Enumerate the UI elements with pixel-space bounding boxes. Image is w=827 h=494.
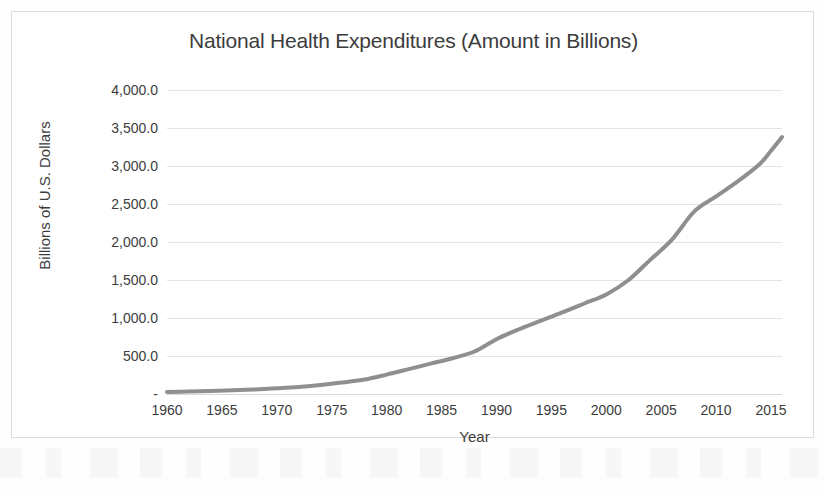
data-series-line xyxy=(167,90,782,394)
scanned-page: National Health Expenditures (Amount in … xyxy=(0,0,827,494)
x-axis-tick-labels: 1960196519701975198019851990199520002005… xyxy=(167,402,782,424)
x-axis-tick: 1970 xyxy=(261,402,292,418)
y-axis-tick: 2,500.0 xyxy=(111,196,158,212)
y-axis-tick: 1,500.0 xyxy=(111,272,158,288)
x-axis-tick: 1995 xyxy=(536,402,567,418)
x-axis-tick: 2010 xyxy=(701,402,732,418)
y-axis-tick: - xyxy=(153,386,158,402)
chart-frame: National Health Expenditures (Amount in … xyxy=(11,11,814,438)
x-axis-tick: 2015 xyxy=(755,402,786,418)
y-axis-tick: 3,000.0 xyxy=(111,158,158,174)
x-axis-tick: 1980 xyxy=(371,402,402,418)
y-axis-tick: 500.0 xyxy=(123,348,158,364)
y-axis-tick: 2,000.0 xyxy=(111,234,158,250)
y-axis-tick: 3,500.0 xyxy=(111,120,158,136)
plot-area xyxy=(167,90,782,394)
x-axis-tick: 2000 xyxy=(591,402,622,418)
gridline xyxy=(167,394,782,395)
x-axis-tick: 1990 xyxy=(481,402,512,418)
x-axis-tick: 2005 xyxy=(646,402,677,418)
x-axis-title: Year xyxy=(167,428,782,445)
chart-title: National Health Expenditures (Amount in … xyxy=(12,29,815,53)
x-axis-tick: 1975 xyxy=(316,402,347,418)
y-axis-tick: 4,000.0 xyxy=(111,82,158,98)
y-axis-tick-labels: 4,000.03,500.03,000.02,500.02,000.01,500… xyxy=(12,90,167,394)
x-axis-tick: 1960 xyxy=(151,402,182,418)
x-axis-tick: 1985 xyxy=(426,402,457,418)
scan-bleedthrough-artifact xyxy=(0,448,827,478)
x-axis-tick: 1965 xyxy=(206,402,237,418)
y-axis-tick: 1,000.0 xyxy=(111,310,158,326)
series-path xyxy=(167,137,782,392)
